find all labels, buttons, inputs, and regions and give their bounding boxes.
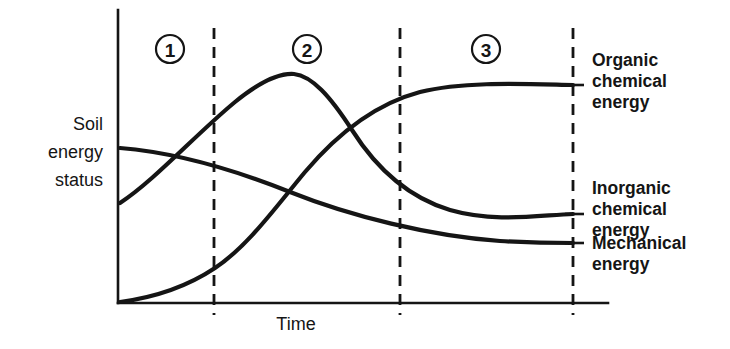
phase-badge-2-label: 2 (302, 40, 313, 61)
y-axis-title-line-1: Soil (73, 114, 103, 134)
curves-group (120, 74, 573, 302)
series-label-organic-line-2: chemical (592, 71, 667, 91)
series-label-organic: Organic chemical energy (592, 50, 667, 112)
series-label-organic-line-3: energy (592, 92, 650, 112)
series-label-inorganic: Inorganic chemical energy (592, 178, 671, 240)
y-axis-title: Soil energy status (48, 114, 103, 190)
phase-badge-2: 2 (293, 35, 321, 63)
curve-inorganic-chemical-energy (120, 74, 573, 217)
series-label-mechanical: Mechanical energy (592, 233, 686, 274)
y-axis-title-line-2: energy (48, 142, 103, 162)
series-label-mechanical-line-2: energy (592, 254, 650, 274)
phase-badge-1: 1 (156, 35, 184, 63)
soil-energy-status-diagram: 1 2 3 Soil energy status Time Organic ch… (0, 0, 730, 349)
phase-dividers-group (214, 28, 573, 315)
series-label-inorganic-line-1: Inorganic (592, 178, 671, 198)
x-axis-title: Time (276, 314, 315, 334)
phase-badge-3: 3 (472, 35, 500, 63)
y-axis-title-line-3: status (55, 170, 103, 190)
curve-mechanical-energy (120, 148, 573, 243)
series-label-inorganic-line-2: chemical (592, 199, 667, 219)
curve-organic-chemical-energy (120, 84, 573, 302)
axes-group (118, 10, 608, 303)
phase-badge-3-label: 3 (481, 40, 492, 61)
series-label-organic-line-1: Organic (592, 50, 658, 70)
phase-badge-1-label: 1 (165, 40, 176, 61)
series-endpoint-ticks (565, 85, 584, 243)
series-label-mechanical-line-1: Mechanical (592, 233, 686, 253)
